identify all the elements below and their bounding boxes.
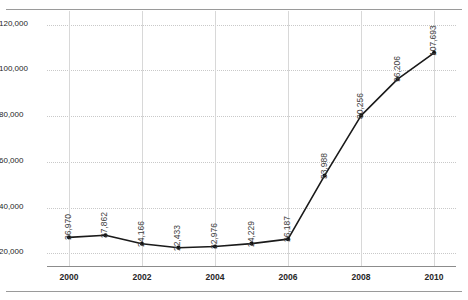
data-point-value-label: 22,976 — [209, 223, 219, 249]
plot-area: 26,97027,86224,16622,43322,97624,22926,1… — [47, 11, 456, 267]
data-point-value-label: 107,693 — [428, 25, 438, 56]
y-axis-tick-label: 20,000 — [0, 247, 43, 256]
series-polyline — [69, 53, 434, 248]
y-axis-tick-label: 60,000 — [0, 156, 43, 165]
x-axis-tick-label: 2000 — [59, 272, 78, 282]
y-axis-tick-label: 100,000 — [0, 64, 43, 73]
data-point-value-label: 24,229 — [246, 221, 256, 247]
x-axis-tick-label: 2008 — [352, 272, 371, 282]
x-axis-tick-label: 2002 — [132, 272, 151, 282]
data-point-value-label: 27,862 — [99, 212, 109, 238]
y-axis-tick-label: 40,000 — [0, 202, 43, 211]
x-axis-tick-label: 2010 — [425, 272, 444, 282]
line-chart: 20,00040,00060,00080,000100,000120,000 2… — [0, 0, 468, 300]
y-axis-tick-label: 120,000 — [0, 19, 43, 28]
x-axis-tick-label: 2006 — [279, 272, 298, 282]
y-axis-tick-label: 80,000 — [0, 110, 43, 119]
data-point-value-label: 22,433 — [172, 225, 182, 251]
data-point-value-label: 26,187 — [282, 216, 292, 242]
data-point-value-label: 24,166 — [136, 221, 146, 247]
data-point-value-label: 26,970 — [63, 214, 73, 240]
data-point-value-label: 53,988 — [319, 153, 329, 179]
top-rule — [6, 9, 462, 10]
data-point-value-label: 80,256 — [355, 93, 365, 119]
data-point-value-label: 96,206 — [392, 56, 402, 82]
x-axis-tick-label: 2004 — [206, 272, 225, 282]
bottom-rule — [6, 291, 462, 292]
series-markers — [67, 51, 436, 250]
